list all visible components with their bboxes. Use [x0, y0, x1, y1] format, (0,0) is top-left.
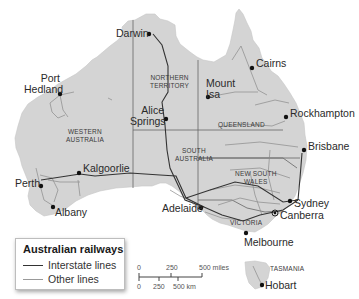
city-label-rockhampton: Rockhampton — [290, 108, 355, 119]
scale-miles-500: 500 miles — [199, 264, 229, 271]
city-label-adelaide: Adelaide — [162, 203, 203, 214]
city-label-port-hedland: Port Hedland — [24, 73, 60, 95]
city-label-line: Hedland — [24, 84, 60, 95]
state-label-line: VICTORIA — [230, 219, 262, 227]
city-label-alice-springs: Alice Springs — [130, 105, 164, 127]
legend-title: Australian railways — [23, 243, 123, 255]
scale-bar: 0 250 500 miles 0 250 500 km — [136, 262, 216, 292]
legend-item-other: Other lines — [23, 273, 99, 285]
interstate-line-swatch — [23, 265, 43, 266]
scale-km-500: 500 km — [173, 283, 196, 290]
city-label-brisbane: Brisbane — [308, 141, 349, 152]
marker-sydney — [288, 199, 292, 203]
other-line-swatch — [23, 279, 43, 280]
state-label-line: SOUTH — [175, 147, 213, 155]
scale-miles-250: 250 — [166, 264, 178, 271]
city-label-kalgoorlie: Kalgoorlie — [83, 163, 130, 174]
legend-item-interstate: Interstate lines — [23, 259, 116, 271]
city-label-line: Springs — [130, 116, 164, 127]
state-label-line: WESTERN — [66, 128, 104, 136]
scale-km-250: 250 — [153, 283, 165, 290]
state-label-nt: NORTHERN TERRITORY — [150, 74, 189, 90]
legend-item-label: Other lines — [48, 273, 99, 285]
marker-cairns — [250, 66, 254, 70]
marker-rockhampton — [284, 115, 288, 119]
state-label-line: WALES — [235, 178, 277, 186]
city-label-mount-isa: Mount Isa — [206, 78, 235, 100]
marker-kalgoorlie — [77, 171, 81, 175]
city-label-sydney: Sydney — [294, 198, 329, 209]
scale-km-0: 0 — [137, 283, 141, 290]
marker-melbourne — [244, 231, 248, 235]
scale-miles-0: 0 — [137, 264, 141, 271]
map-legend: Australian railways Interstate lines Oth… — [15, 238, 125, 290]
state-label-line: NEW SOUTH — [235, 170, 277, 178]
state-label-line: QUEENSLAND — [218, 121, 265, 129]
state-label-vic: VICTORIA — [230, 219, 262, 227]
state-label-qld: QUEENSLAND — [218, 121, 265, 129]
marker-hobart — [260, 283, 264, 287]
city-label-darwin: Darwin — [116, 28, 149, 39]
state-label-sa: SOUTH AUSTRALIA — [175, 147, 213, 163]
state-label-line: AUSTRALIA — [175, 155, 213, 163]
legend-item-label: Interstate lines — [48, 259, 116, 271]
city-label-line: Isa — [206, 89, 235, 100]
city-label-melbourne: Melbourne — [244, 237, 294, 248]
city-label-albany: Albany — [55, 207, 87, 218]
state-label-tas: TASMANIA — [270, 265, 304, 273]
city-label-hobart: Hobart — [265, 280, 297, 291]
state-label-line: TASMANIA — [270, 265, 304, 273]
marker-brisbane — [302, 148, 306, 152]
state-label-wa: WESTERN AUSTRALIA — [66, 128, 104, 144]
city-label-canberra: Canberra — [280, 210, 324, 221]
city-label-perth: Perth — [15, 178, 40, 189]
state-label-nsw: NEW SOUTH WALES — [235, 170, 277, 186]
state-label-line: TERRITORY — [150, 82, 189, 90]
city-label-cairns: Cairns — [256, 58, 286, 69]
state-label-line: NORTHERN — [150, 74, 189, 82]
state-label-line: AUSTRALIA — [66, 136, 104, 144]
